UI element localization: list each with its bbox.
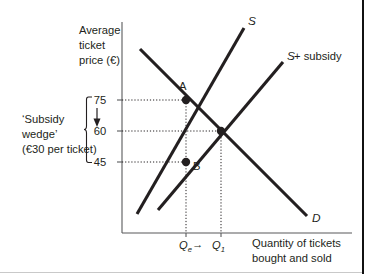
y-axis-label-line-3: price (€)	[79, 54, 120, 66]
subsidy-wedge-label-line-3: (€30 per ticket)	[22, 143, 97, 155]
point-equilibrium-marker	[217, 127, 225, 135]
demand-curve-label: D	[312, 211, 321, 225]
y-tick-label-60: 60	[94, 125, 106, 137]
y-tick-label-75: 75	[94, 94, 106, 106]
point-a-label: A	[179, 80, 187, 92]
point-b-label: B	[193, 160, 200, 172]
supply-curve-label: S	[248, 14, 256, 28]
point-a-marker	[182, 96, 190, 104]
economics-subsidy-diagram: Average ticket price (€) Quantity of tic…	[0, 0, 378, 274]
figure-bottom-border	[0, 272, 362, 273]
y-axis-label-line-1: Average	[79, 24, 120, 36]
x-axis-label-line-1: Quantity of tickets	[252, 237, 341, 249]
point-b-marker	[182, 158, 190, 166]
x-tick-arrow: →	[192, 238, 203, 250]
x-axis-label-line-2: bought and sold	[252, 252, 332, 264]
supply-curve	[137, 28, 244, 214]
y-axis-label-line-2: ticket	[79, 39, 106, 51]
subsidy-wedge-label-line-1: ‘Subsidy	[22, 113, 65, 125]
supply-plus-subsidy-label-suffix: + subsidy	[294, 50, 342, 62]
x-tick-label-qe: Qe	[179, 239, 192, 254]
x-tick-label-q1: Q1	[212, 239, 225, 254]
subsidy-wedge-label-line-2: wedge’	[21, 128, 57, 140]
diagram-canvas: Average ticket price (€) Quantity of tic…	[0, 0, 378, 274]
y-tick-label-45: 45	[94, 156, 106, 168]
figure-right-border	[362, 0, 364, 274]
